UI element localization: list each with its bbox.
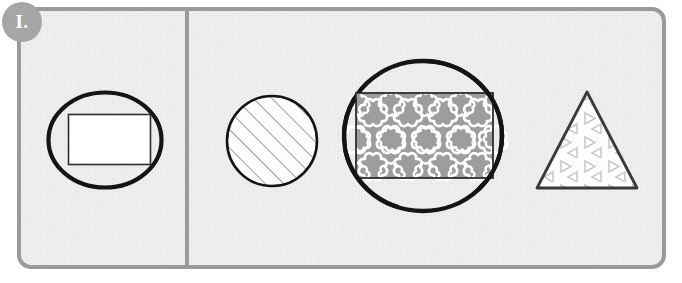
triangle-with-triangles (533, 86, 645, 196)
inner-rectangle (69, 115, 151, 165)
circle-diagonal-hatch (222, 86, 324, 194)
exercise-number-badge: I. (2, 2, 42, 42)
worksheet-canvas: I. (0, 0, 682, 283)
flower-rectangle (342, 93, 507, 180)
oval-with-rectangle (44, 86, 168, 194)
section-divider (185, 7, 189, 269)
oval-with-flower-rectangle (340, 52, 510, 220)
